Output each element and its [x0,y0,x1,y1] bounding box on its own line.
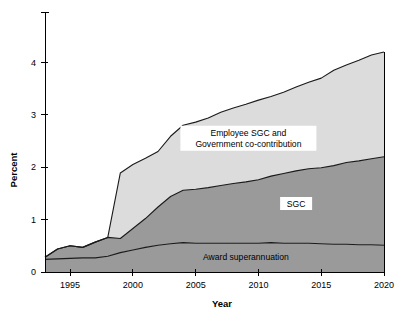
annotation-bottom-band-label: Award superannuation [203,252,289,262]
x-axis-tick-label: 2020 [374,280,394,290]
y-axis-tick-label: 2 [31,162,36,172]
y-axis-tick-label: 0 [31,267,36,277]
x-axis-tick-labels: 199520002005201020152020 [60,280,394,290]
annotation-top-band-line1: Employee SGC and [210,128,286,138]
annotation-middle-band: SGC [280,197,312,210]
x-axis-tick-label: 2010 [248,280,268,290]
x-axis-tick-label: 2000 [123,280,143,290]
y-axis-tick-label: 4 [31,58,36,68]
chart-container: 01234 199520002005201020152020 Percent Y… [0,0,409,322]
area-chart-svg: 01234 199520002005201020152020 Percent Y… [0,0,409,322]
annotation-middle-band-label: SGC [287,199,306,209]
y-axis-tick-label: 1 [31,215,36,225]
y-axis-tick-label: 3 [31,110,36,120]
x-axis-tick-label: 2005 [186,280,206,290]
x-axis-tick-label: 2015 [311,280,331,290]
annotation-top-band-line2: Government co-contribution [195,139,301,149]
x-axis-tick-label: 1995 [60,280,80,290]
annotation-top-band: Employee SGC and Government co-contribut… [180,126,316,151]
chart-series-group [45,52,384,272]
y-axis-tick-labels: 01234 [31,58,36,278]
x-axis-title: Year [212,298,232,309]
annotation-bottom-band: Award superannuation [203,252,289,262]
y-axis-title: Percent [8,152,19,188]
